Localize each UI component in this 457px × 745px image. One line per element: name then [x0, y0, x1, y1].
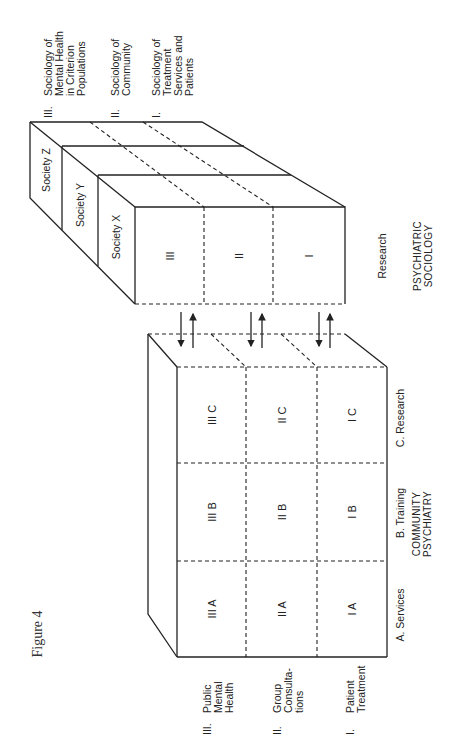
svg-text:COMMUNITY: COMMUNITY [411, 492, 422, 556]
cell-i-c: I C [346, 408, 358, 422]
column-b-label: B. Training [394, 488, 406, 538]
column-a-label: A. Services [394, 588, 406, 641]
svg-text:PSYCHIATRY: PSYCHIATRY [422, 491, 433, 557]
svg-text:I.: I. [344, 729, 356, 735]
level-ii-cell: II [233, 253, 245, 259]
psychiatric-sociology-title: PSYCHIATRIC SOCIOLOGY [412, 221, 434, 291]
level-i-label: I. Sociology of Treatment Services and P… [150, 35, 195, 118]
svg-text:tions: tions [293, 691, 305, 713]
svg-text:Treatment: Treatment [355, 665, 367, 713]
psychiatric-sociology-cube: Society Z Society Y Society X III II I [30, 122, 345, 304]
svg-text:II.: II. [109, 109, 121, 118]
level-iii-cell: III [164, 251, 176, 260]
cell-iii-c: III C [206, 405, 218, 425]
society-y-label: Society Y [74, 183, 86, 227]
cell-i-b: I B [346, 505, 358, 518]
cell-iii-a: III A [206, 599, 218, 619]
svg-text:II.: II. [271, 726, 283, 735]
figure-title: Figure 4 [30, 610, 45, 657]
research-axis-label: Research [376, 233, 388, 278]
svg-text:Populations: Populations [75, 41, 87, 96]
svg-text:SOCIOLOGY: SOCIOLOGY [423, 225, 434, 288]
box-right-diagonal [345, 334, 387, 367]
level-iii-label: III. Sociology of Mental Health in Crite… [42, 31, 87, 118]
cell-i-a: I A [346, 602, 358, 616]
level-divider-top [143, 122, 273, 207]
society-z-label: Society Z [40, 148, 52, 192]
society-x-label: Society X [110, 215, 122, 259]
cell-ii-a: II A [276, 600, 288, 617]
svg-text:PSYCHIATRIC: PSYCHIATRIC [412, 221, 423, 291]
svg-text:III.: III. [42, 106, 54, 118]
row-iii-label: III. Public Mental Health [201, 681, 235, 735]
svg-text:Community: Community [120, 42, 132, 96]
sociology-level-labels: III. Sociology of Mental Health in Crite… [42, 31, 195, 118]
column-c-label: C. Research [394, 389, 406, 448]
row-i-label: I. Patient Treatment [344, 665, 367, 735]
bidirectional-arrows [181, 312, 330, 348]
level-divider-top [90, 122, 204, 207]
box-diagonal-edge [148, 334, 177, 367]
community-psychiatry-box: III C II C I C III B II B I B III A II A… [148, 334, 387, 657]
box-top-divider [281, 334, 317, 367]
level-i-cell: I [303, 254, 315, 257]
svg-text:I.: I. [150, 112, 162, 118]
svg-text:Patients: Patients [183, 58, 195, 96]
box-top-divider [211, 334, 246, 367]
community-psychiatry-title: COMMUNITY PSYCHIATRY [411, 491, 433, 557]
cell-ii-b: II B [276, 504, 288, 521]
svg-text:Health: Health [223, 682, 235, 713]
level-ii-label: II. Sociology of Community [109, 39, 132, 118]
cell-ii-c: II C [276, 406, 288, 423]
row-ii-label: II. Group Consulta- tions [271, 668, 305, 735]
svg-text:III.: III. [201, 723, 213, 735]
box-left-edge [148, 334, 177, 657]
figure-diagram: Society Z Society Y Society X III II I I… [0, 0, 457, 745]
cell-iii-b: III B [206, 502, 218, 522]
